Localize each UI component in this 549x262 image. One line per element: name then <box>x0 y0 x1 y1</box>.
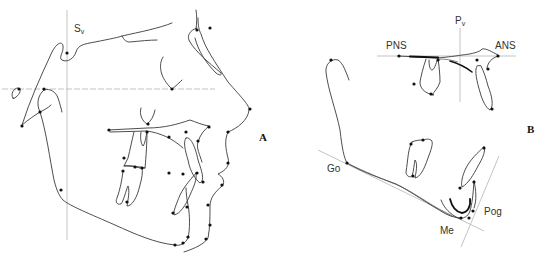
landmark-pns <box>397 54 400 57</box>
me-label: Me <box>440 225 454 236</box>
upper-molar-a <box>124 132 147 168</box>
landmark-upper-molar-cusp-b <box>412 82 415 85</box>
upper-molar-b <box>420 58 440 95</box>
landmark-gnathion <box>467 216 470 219</box>
anterior-nasal-outline <box>140 108 155 124</box>
landmark-soft-menton <box>204 237 207 240</box>
palate-lower-thin <box>438 59 458 62</box>
pterygoid-outline <box>38 89 62 112</box>
lower-incisor-labial <box>474 181 476 208</box>
landmark-upper-incisor-apex <box>184 130 187 133</box>
panel-b-label: B <box>527 123 535 135</box>
landmark-condylion <box>329 58 332 61</box>
palatal-plane-a <box>108 120 209 130</box>
pog-label: Pog <box>484 206 502 217</box>
landmark-molar-mesial <box>145 130 148 133</box>
landmark-a-point <box>170 87 173 90</box>
landmark-labrale-superius <box>226 161 229 164</box>
landmark-menton <box>459 216 462 219</box>
landmark-molar-occlusal-1 <box>121 169 124 172</box>
landmark-orbitale <box>17 87 20 90</box>
facial-line <box>461 156 499 247</box>
lower-molar-a <box>116 167 142 206</box>
landmark-molar-occlusal-3 <box>140 166 143 169</box>
panel-a: Sv <box>2 10 267 252</box>
landmark-b-point-b <box>472 180 475 183</box>
landmark-ans-a <box>207 125 210 128</box>
landmark-a-point-b <box>486 67 489 70</box>
ramus-posterior-outline <box>22 105 51 125</box>
landmark-lower-incisor-apex <box>171 211 174 214</box>
landmark-soft-pogonion <box>208 223 211 226</box>
landmark-gonion <box>345 161 348 164</box>
landmark-subnasale <box>226 130 229 133</box>
panel-b: Pv PNS ANS Go Me Pog <box>318 15 535 247</box>
landmark-lower-incisal <box>201 180 204 183</box>
condyle-ramus-b <box>326 60 349 163</box>
sv-label: Sv <box>74 23 85 35</box>
landmark-pns-a <box>107 128 110 131</box>
landmark-pronasale <box>248 107 251 110</box>
landmark-stomion <box>220 183 223 186</box>
landmark-ans <box>496 54 499 57</box>
landmarks-a <box>17 26 251 246</box>
pv-label: Pv <box>455 15 466 27</box>
landmark-lower-incisal-b <box>482 146 485 149</box>
lower-incisor-a <box>174 173 196 215</box>
mandibular-plane-line <box>318 150 484 231</box>
palate-thick-posterior <box>410 57 438 58</box>
landmark-occlusal-2 <box>181 172 184 175</box>
palate-lower-curve <box>450 61 472 72</box>
pns-label: PNS <box>386 40 407 51</box>
orbit-floor-line <box>122 36 157 42</box>
landmark-lower-molar-apex-b <box>411 174 414 177</box>
landmark-ptm <box>146 122 149 125</box>
landmark-a-point-bone <box>196 139 199 142</box>
nose-profile <box>198 18 249 132</box>
landmark-nasion-soft <box>195 28 198 31</box>
landmark-occlusal-1 <box>167 171 170 174</box>
upper-incisor-b <box>476 66 492 110</box>
landmark-incisal-edge <box>195 171 198 174</box>
landmark-pogonion-a <box>186 235 189 238</box>
cephalometric-figure: Sv <box>0 0 549 262</box>
landmark-upper-incisal-b <box>490 107 493 110</box>
landmark-lower-molar-cusp-1 <box>409 142 412 145</box>
landmark-gnathion-a <box>181 241 184 244</box>
landmark-gonion-a <box>59 188 62 191</box>
lip-chin-profile <box>184 132 229 252</box>
landmark-upper-molar-cusp <box>122 156 125 159</box>
landmark-sella <box>65 51 68 54</box>
landmark-upper-incisor-apex-b <box>475 58 478 61</box>
panel-a-label: A <box>259 131 267 143</box>
landmark-basion <box>20 124 23 127</box>
landmark-menton-a <box>173 243 176 246</box>
landmark-molar-occlusal-2 <box>133 165 136 168</box>
symphysis-bold-curve <box>450 199 470 213</box>
landmark-labrale-inferius <box>206 203 209 206</box>
landmark-nasion <box>208 26 211 29</box>
landmark-porion <box>42 87 45 90</box>
landmark-lower-molar-apex <box>125 200 128 203</box>
landmark-b-point <box>185 205 188 208</box>
landmark-articulare <box>38 110 41 113</box>
landmark-upper-molar-distal-b <box>429 92 432 95</box>
landmark-molar-apex-b <box>436 58 439 61</box>
landmark-pogonion <box>471 209 474 212</box>
landmark-lower-molar-cusp-2 <box>421 138 424 141</box>
landmark-prosthion <box>167 135 170 138</box>
landmark-lower-incisor-apex-b <box>458 186 461 189</box>
maxilla-anterior <box>197 126 209 162</box>
nostril-outline <box>188 28 221 75</box>
nasolabial-fold <box>160 57 182 89</box>
ans-label: ANS <box>495 40 516 51</box>
go-label: Go <box>327 163 341 174</box>
nasal-dorsum-line <box>196 10 197 29</box>
maxilla-anterior-b <box>487 56 498 68</box>
